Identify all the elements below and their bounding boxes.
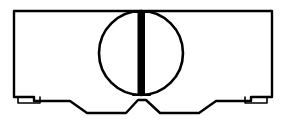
figure-root	[0, 0, 285, 132]
center-divider-bar	[138, 11, 146, 95]
technical-drawing-canvas	[0, 0, 285, 132]
